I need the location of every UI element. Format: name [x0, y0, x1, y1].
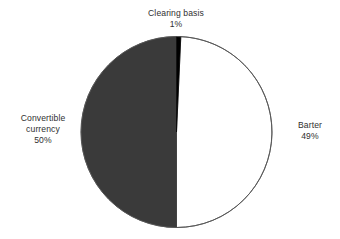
- pie-label-convertible-currency: Convertible currency 50%: [2, 113, 84, 147]
- pie-label-barter-name: Barter: [282, 120, 338, 131]
- pie-label-clearing-basis-percent: 1%: [120, 19, 232, 30]
- pie-slice-barter: [177, 37, 272, 228]
- pie-label-barter-percent: 49%: [282, 131, 338, 142]
- pie-label-barter: Barter 49%: [282, 120, 338, 142]
- pie-slice-convertible-currency: [81, 37, 177, 228]
- pie-label-convertible-currency-name-line1: Convertible: [2, 113, 84, 124]
- pie-label-convertible-currency-percent: 50%: [2, 135, 84, 146]
- pie-chart-figure: Clearing basis 1% Convertible currency 5…: [0, 0, 340, 239]
- pie-label-clearing-basis: Clearing basis 1%: [120, 8, 232, 30]
- pie-label-clearing-basis-name: Clearing basis: [120, 8, 232, 19]
- pie-label-convertible-currency-name-line2: currency: [2, 124, 84, 135]
